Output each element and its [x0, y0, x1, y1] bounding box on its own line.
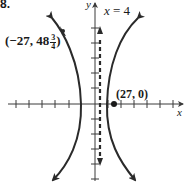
x-axis-label: x: [177, 106, 182, 118]
left-point-suffix: ): [56, 33, 60, 48]
graph-canvas: [0, 0, 187, 182]
asymptote-label: x = 4: [104, 3, 130, 19]
y-axis-label: y: [86, 0, 91, 10]
asymptote-value: = 4: [110, 3, 130, 18]
problem-number: 8.: [0, 0, 10, 11]
graph-figure: 8. y x x = 4 (−27, 4834) (27, 0): [0, 0, 187, 182]
y-axis: [91, 3, 99, 181]
right-point-label: (27, 0): [116, 87, 148, 102]
asymptote-line: [97, 26, 103, 166]
left-point-prefix: (−27, 48: [5, 33, 49, 48]
left-point-label: (−27, 4834): [5, 33, 61, 51]
